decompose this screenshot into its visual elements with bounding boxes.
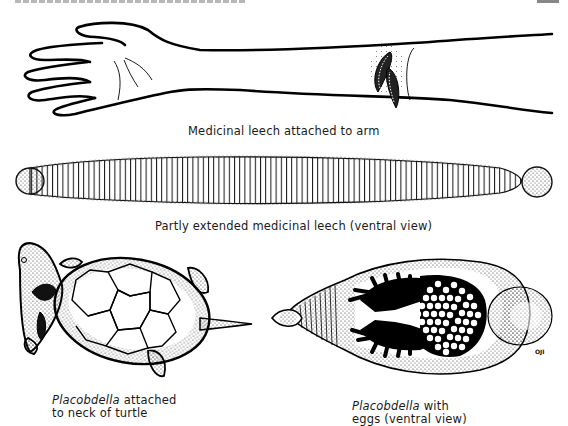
caption-turtle-line1: attached: [120, 393, 177, 407]
caption-turtle-line2: to neck of turtle: [52, 407, 176, 420]
caption-turtle-genus: Placobdella: [52, 393, 120, 407]
caption-extended-leech: Partly extended medicinal leech (ventral…: [155, 220, 432, 233]
illustrations: [0, 0, 568, 426]
artist-initials: OJI: [535, 348, 545, 355]
caption-eggs-genus: Placobdella: [352, 399, 420, 413]
caption-eggs-line2: eggs (ventral view): [352, 413, 467, 426]
caption-turtle: Placobdella attached to neck of turtle: [52, 394, 176, 420]
caption-eggs-line1: with: [420, 399, 449, 413]
caption-eggs: Placobdella with eggs (ventral view): [352, 400, 467, 426]
placobdella-eggs-illustration: [272, 259, 552, 374]
caption-arm: Medicinal leech attached to arm: [188, 125, 380, 138]
turtle-illustration: [19, 243, 252, 376]
arm-illustration: [25, 23, 552, 115]
extended-leech-illustration: [16, 157, 552, 204]
